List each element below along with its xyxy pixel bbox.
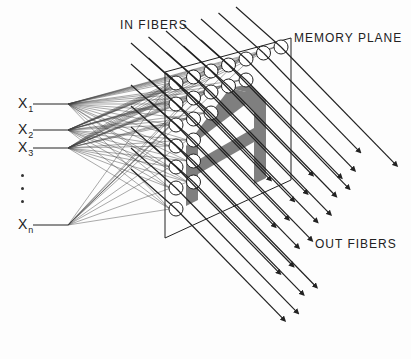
input-xn-label: Xn xyxy=(18,216,33,235)
ellipsis-dot xyxy=(21,187,24,190)
memory-plane-label: MEMORY PLANE xyxy=(294,31,402,45)
ellipsis-dot xyxy=(21,174,24,177)
input-x1-label: X1 xyxy=(18,95,33,114)
diagram-graphics xyxy=(0,0,411,359)
input-x3-label: X3 xyxy=(18,139,33,158)
input-lines xyxy=(33,104,68,225)
out-fibers-label: OUT FIBERS xyxy=(315,237,397,251)
ellipsis-dot xyxy=(21,200,24,203)
optical-memory-diagram: IN FIBERS MEMORY PLANE OUT FIBERS X1 X2 … xyxy=(0,0,411,359)
input-x2-label: X2 xyxy=(18,121,33,140)
in-fibers-label: IN FIBERS xyxy=(120,18,188,32)
